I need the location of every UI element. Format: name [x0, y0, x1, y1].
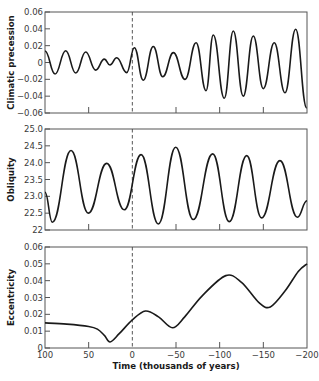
eccentricity-panel: 0.060.050.040.030.020.010Eccentricity100… — [6, 242, 319, 360]
y-tick-label: 25.0 — [24, 124, 43, 134]
y-axis-title: Eccentricity — [6, 269, 16, 326]
plot-frame — [45, 247, 307, 348]
obliquity-panel: 25.024.524.023.523.022.522Obliquity — [6, 124, 307, 235]
y-tick-label: −0.04 — [17, 91, 43, 101]
y-tick-label: 0.05 — [24, 259, 43, 269]
y-tick-label: −0.06 — [17, 108, 43, 118]
plot-frame — [45, 12, 307, 113]
precession-panel: 0.060.040.020−0.02−0.04−0.06Climatic pre… — [6, 7, 307, 118]
x-tick-label: −200 — [295, 350, 318, 360]
plot-frame — [45, 129, 307, 230]
y-tick-label: 0.04 — [24, 24, 43, 34]
y-axis-title: Climatic precession — [6, 15, 16, 109]
y-tick-label: 0.06 — [24, 242, 43, 252]
x-tick-label: 0 — [130, 350, 135, 360]
x-tick-label: −100 — [208, 350, 231, 360]
y-tick-label: 0 — [38, 58, 43, 68]
y-tick-label: 0.03 — [24, 293, 43, 303]
y-tick-label: 23.5 — [24, 175, 43, 185]
y-tick-label: 0.06 — [24, 7, 43, 17]
y-tick-label: 24.5 — [24, 141, 43, 151]
eccentricity-curve — [45, 264, 307, 342]
x-tick-label: −50 — [167, 350, 185, 360]
y-tick-label: −0.02 — [17, 74, 43, 84]
y-tick-label: 0.04 — [24, 276, 43, 286]
y-tick-label: 22.5 — [24, 208, 43, 218]
obliquity-curve — [45, 147, 307, 224]
y-tick-label: 24.0 — [24, 158, 43, 168]
precession-curve — [45, 29, 307, 108]
y-axis-title: Obliquity — [6, 157, 16, 202]
x-tick-label: 100 — [37, 350, 53, 360]
x-axis-title: Time (thousands of years) — [112, 361, 239, 371]
orbital-parameters-chart: 0.060.040.020−0.02−0.04−0.06Climatic pre… — [0, 0, 319, 381]
y-tick-label: 0.02 — [24, 309, 43, 319]
x-tick-label: −150 — [252, 350, 275, 360]
x-tick-label: 50 — [83, 350, 94, 360]
y-tick-label: 22 — [32, 225, 43, 235]
y-tick-label: 0.01 — [24, 326, 43, 336]
y-tick-label: 0.02 — [24, 41, 43, 51]
y-tick-label: 23.0 — [24, 191, 43, 201]
